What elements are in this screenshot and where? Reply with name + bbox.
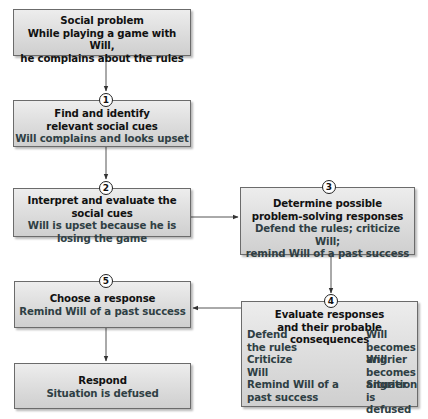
consequence-text: Will becomes [366, 354, 416, 379]
node-choose-response: Choose a response Remind Will of a past … [14, 281, 191, 328]
node-title: Determine possible [241, 198, 414, 211]
consequence: Situation is defused [366, 379, 417, 417]
step-number-2: 2 [99, 181, 113, 195]
response-text: past success [247, 392, 357, 405]
response-text: the rules [247, 342, 357, 355]
node-detail: Will complains and looks upset [14, 133, 190, 146]
response-text: Will [247, 367, 357, 380]
node-title: Find and identify [14, 108, 190, 121]
node-determine-responses: Determine possible problem-solving respo… [240, 187, 415, 255]
node-title: Respond [15, 375, 190, 388]
consequence-text: defused [366, 404, 417, 417]
step-number-5: 5 [99, 274, 113, 288]
node-social-problem: Social problem While playing a game with… [13, 9, 191, 56]
node-interpret-cues: Interpret and evaluate the social cues W… [13, 188, 191, 237]
evaluation-row: Remind Will of a past success Situation … [247, 379, 413, 404]
evaluation-table: Defend the rules Will becomes angrier Cr… [247, 329, 413, 404]
node-title: Evaluate responses [242, 309, 417, 322]
node-detail: remind Will of a past success [241, 248, 414, 261]
node-title: Social problem [14, 15, 190, 28]
node-title: relevant social cues [14, 121, 190, 134]
node-find-cues: Find and identify relevant social cues W… [13, 100, 191, 147]
node-detail: losing the game [14, 233, 190, 246]
node-title: Interpret and evaluate the social cues [14, 195, 190, 220]
step-number-4: 4 [324, 294, 338, 308]
response-option: Remind Will of a past success [247, 379, 357, 404]
node-evaluate-responses: Evaluate responses and their probable co… [241, 301, 418, 407]
node-detail: he complains about the rules [14, 53, 190, 66]
consequence-text: Will becomes [366, 329, 416, 354]
evaluation-row: Defend the rules Will becomes angrier [247, 329, 413, 354]
node-title: Choose a response [15, 293, 190, 306]
node-detail: Situation is defused [15, 388, 190, 401]
node-detail: While playing a game with Will, [14, 28, 190, 53]
step-number-1: 1 [99, 93, 113, 107]
node-detail: Remind Will of a past success [15, 306, 190, 319]
node-detail: Will is upset because he is [14, 220, 190, 233]
response-text: Criticize [247, 354, 357, 367]
response-option: Defend the rules [247, 329, 357, 354]
response-text: Defend [247, 329, 357, 342]
evaluation-row: Criticize Will Will becomes angrier [247, 354, 413, 379]
consequence-text: Situation is [366, 379, 417, 404]
node-detail: Defend the rules; criticize Will; [241, 223, 414, 248]
response-option: Criticize Will [247, 354, 357, 379]
step-number-3: 3 [322, 180, 336, 194]
node-respond: Respond Situation is defused [14, 363, 191, 409]
response-text: Remind Will of a [247, 379, 357, 392]
node-title: problem-solving responses [241, 211, 414, 224]
